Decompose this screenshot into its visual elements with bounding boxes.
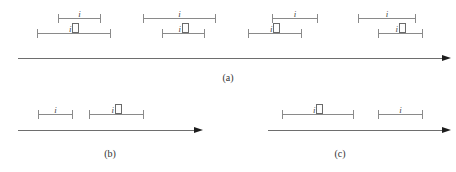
- interval-endpoint-left: [248, 29, 249, 38]
- interval-label: i: [313, 104, 323, 115]
- panel-caption: (b): [104, 148, 116, 159]
- interval-endpoint-left: [282, 110, 283, 119]
- interval-endpoint-left: [143, 14, 144, 23]
- axis-arrow-icon: [442, 127, 451, 133]
- interval-top: i: [58, 14, 101, 23]
- interval-top: i: [272, 14, 318, 23]
- interval-top: i: [143, 14, 216, 23]
- interval-label: i: [386, 10, 389, 19]
- interval-endpoint-left: [58, 14, 59, 23]
- interval-endpoint-right: [110, 29, 111, 38]
- notdef-box-icon: [182, 23, 189, 33]
- interval-endpoint-right: [215, 14, 216, 23]
- timeline-axis: [18, 130, 194, 131]
- notdef-box-icon: [273, 23, 280, 33]
- panel-caption: (a): [222, 72, 233, 83]
- timeline-axis: [268, 130, 442, 131]
- interval-endpoint-right: [422, 110, 423, 119]
- interval-label-text: i: [399, 105, 402, 115]
- interval-endpoint-left: [358, 14, 359, 23]
- interval-label-text: i: [294, 9, 297, 19]
- axis-arrow-icon: [194, 127, 203, 133]
- interval-endpoint-left: [272, 14, 273, 23]
- interval-bottom: i: [37, 29, 111, 38]
- interval-endpoint-right: [100, 14, 101, 23]
- interval-label: i: [399, 106, 402, 115]
- interval-endpoint-left: [89, 110, 90, 119]
- interval-endpoint-left: [378, 110, 379, 119]
- timeline-axis: [18, 58, 442, 59]
- interval-endpoint-right: [72, 110, 73, 119]
- interval-label: i: [78, 10, 81, 19]
- interval-endpoint-right: [301, 29, 302, 38]
- interval-label: i: [178, 23, 188, 34]
- interval-label: i: [395, 23, 405, 34]
- interval-endpoint-left: [37, 29, 38, 38]
- interval-endpoint-left: [162, 29, 163, 38]
- axis-arrow-icon: [442, 55, 451, 61]
- interval-label: i: [178, 10, 181, 19]
- interval-bottom: i: [378, 29, 423, 38]
- interval-label: i: [54, 106, 57, 115]
- interval-top: i: [358, 14, 416, 23]
- interval-label-text: i: [54, 105, 57, 115]
- interval-label: i: [111, 104, 121, 115]
- notdef-box-icon: [115, 104, 122, 114]
- interval-endpoint-right: [353, 110, 354, 119]
- interval-endpoint-right: [422, 29, 423, 38]
- notdef-box-icon: [316, 104, 323, 114]
- interval-single: i: [38, 110, 73, 119]
- interval-endpoint-right: [317, 14, 318, 23]
- notdef-box-icon: [72, 23, 79, 33]
- interval-single: i: [89, 110, 144, 119]
- interval-single: i: [282, 110, 354, 119]
- interval-endpoint-left: [378, 29, 379, 38]
- interval-label: i: [69, 23, 79, 34]
- interval-label: i: [294, 10, 297, 19]
- panel-caption: (c): [334, 148, 345, 159]
- interval-endpoint-right: [143, 110, 144, 119]
- interval-bottom: i: [162, 29, 205, 38]
- interval-label-text: i: [386, 9, 389, 19]
- notdef-box-icon: [399, 23, 406, 33]
- interval-label: i: [270, 23, 280, 34]
- interval-label-text: i: [178, 9, 181, 19]
- interval-single: i: [378, 110, 423, 119]
- interval-endpoint-right: [415, 14, 416, 23]
- interval-label-text: i: [78, 9, 81, 19]
- interval-relations-figure: iiiiiiii(a)ii(b)ii(c): [0, 0, 456, 172]
- interval-endpoint-right: [204, 29, 205, 38]
- interval-endpoint-left: [38, 110, 39, 119]
- interval-bottom: i: [248, 29, 302, 38]
